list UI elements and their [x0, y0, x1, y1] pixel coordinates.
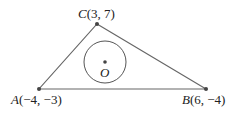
label-b: B(6, −4): [182, 92, 225, 107]
center-point-o: [103, 60, 107, 64]
label-c: C(3, 7): [78, 6, 115, 21]
label-a: A(−4, −3): [10, 92, 62, 107]
label-a-coords: (−4, −3): [19, 92, 62, 107]
label-c-coords: (3, 7): [87, 6, 115, 21]
vertex-a: [37, 87, 41, 91]
label-c-name: C: [78, 6, 87, 21]
triangle-abc: [39, 24, 206, 89]
vertex-b: [204, 87, 208, 91]
label-b-name: B: [182, 92, 190, 107]
triangle-diagram: C(3, 7) O A(−4, −3) B(6, −4): [0, 0, 239, 117]
label-b-coords: (6, −4): [190, 92, 226, 107]
label-a-name: A: [10, 92, 19, 107]
label-o: O: [100, 65, 110, 80]
vertex-c: [95, 22, 99, 26]
